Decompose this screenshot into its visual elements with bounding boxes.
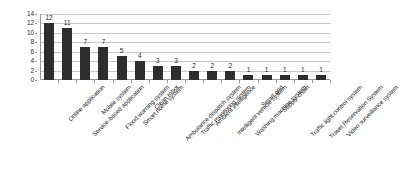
bar[interactable]	[189, 71, 199, 80]
x-tick-mark	[167, 80, 168, 83]
x-tick-mark	[113, 80, 114, 83]
y-tick-mark	[35, 14, 37, 15]
x-tick-mark	[312, 80, 313, 83]
x-tick-mark	[276, 80, 277, 83]
y-tick-mark	[35, 52, 37, 53]
bar-value-label: 11	[64, 20, 71, 27]
bar-slot: 1	[312, 14, 330, 80]
bar-value-label: 2	[192, 63, 196, 70]
bar-slot: 3	[167, 14, 185, 80]
y-tick-label: 0	[30, 77, 34, 84]
bar[interactable]	[44, 23, 54, 80]
x-category-label: Online application	[67, 84, 106, 123]
bar[interactable]	[153, 66, 163, 80]
bar-slot: 5	[113, 14, 131, 80]
y-tick-mark	[35, 71, 37, 72]
bar-value-label: 2	[210, 63, 214, 70]
bar-value-label: 1	[283, 67, 287, 74]
x-tick-mark	[131, 80, 132, 83]
bar-slot: 1	[294, 14, 312, 80]
bar-value-label: 4	[138, 53, 142, 60]
y-tick-label: 6	[30, 48, 34, 55]
y-tick-mark	[35, 33, 37, 34]
x-tick-mark	[149, 80, 150, 83]
bar-value-label: 5	[120, 48, 124, 55]
bars-layer: 121177543322211111	[40, 14, 330, 80]
x-tick-mark	[330, 80, 331, 83]
bar-slot: 4	[131, 14, 149, 80]
y-tick-label: 14	[27, 11, 34, 18]
x-tick-mark	[294, 80, 295, 83]
bar[interactable]	[98, 47, 108, 80]
x-tick-mark	[221, 80, 222, 83]
bar-slot: 7	[76, 14, 94, 80]
bar-slot: 1	[239, 14, 257, 80]
x-category-label: Ambulance dispatch system	[184, 84, 242, 142]
bar-slot: 7	[94, 14, 112, 80]
y-tick-label: 2	[30, 67, 34, 74]
bar[interactable]	[80, 47, 90, 80]
bar-value-label: 3	[156, 58, 160, 65]
y-tick-mark	[35, 42, 37, 43]
y-tick-label: 10	[27, 30, 34, 37]
x-tick-mark	[94, 80, 95, 83]
x-axis-labels: Online applicationService-based applicat…	[0, 84, 348, 172]
y-tick-label: 12	[27, 20, 34, 27]
bar-value-label: 7	[84, 39, 88, 46]
bar-value-label: 1	[247, 67, 251, 74]
x-tick-mark	[239, 80, 240, 83]
x-tick-mark	[58, 80, 59, 83]
x-tick-mark	[203, 80, 204, 83]
x-tick-mark	[258, 80, 259, 83]
bar-slot: 3	[149, 14, 167, 80]
bar[interactable]	[171, 66, 181, 80]
y-axis: 14121086420	[0, 14, 37, 80]
bar-slot: 11	[58, 14, 76, 80]
bar-value-label: 1	[319, 67, 323, 74]
bar-value-label: 12	[45, 15, 52, 22]
y-tick-label: 8	[30, 39, 34, 46]
bar-slot: 2	[185, 14, 203, 80]
y-tick-mark	[35, 61, 37, 62]
bar-slot: 12	[40, 14, 58, 80]
bar[interactable]	[62, 28, 72, 80]
bar-value-label: 1	[301, 67, 305, 74]
y-tick-mark	[35, 80, 37, 81]
bar[interactable]	[225, 71, 235, 80]
y-tick-label: 4	[30, 58, 34, 65]
bar-value-label: 2	[229, 63, 233, 70]
x-tick-mark	[185, 80, 186, 83]
bar-value-label: 1	[265, 67, 269, 74]
y-tick-mark	[35, 23, 37, 24]
bar-slot: 1	[276, 14, 294, 80]
bar[interactable]	[135, 61, 145, 80]
x-tick-mark	[76, 80, 77, 83]
bar[interactable]	[207, 71, 217, 80]
bar-value-label: 7	[102, 39, 106, 46]
bar-slot: 2	[203, 14, 221, 80]
bar-value-label: 3	[174, 58, 178, 65]
bar[interactable]	[117, 56, 127, 80]
bar-slot: 2	[221, 14, 239, 80]
bar-slot: 1	[258, 14, 276, 80]
